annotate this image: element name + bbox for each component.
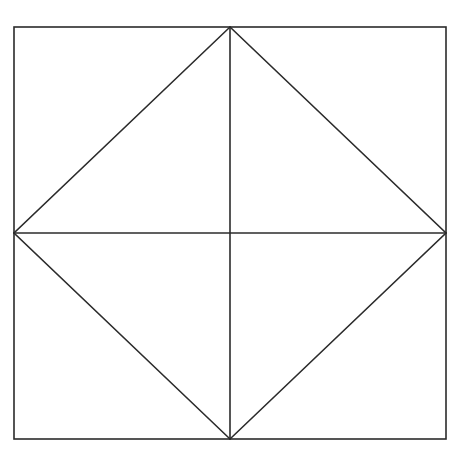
diagram-canvas: [0, 0, 460, 449]
